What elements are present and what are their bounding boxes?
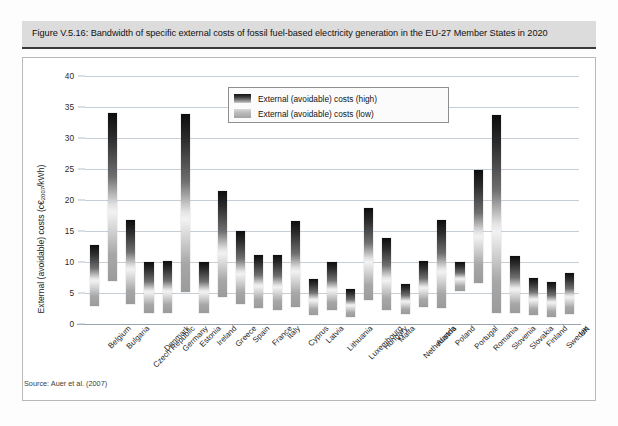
figure-container: Figure V.5.16: Bandwidth of specific ext… [0,0,618,426]
range-bar [309,279,318,314]
range-bar [254,255,263,308]
y-tick-label: 15 [65,226,74,236]
chart-legend: External (avoidable) costs (high) Extern… [228,87,449,123]
range-bar [126,220,135,303]
figure-title-band: Figure V.5.16: Bandwidth of specific ext… [22,21,596,49]
range-bar [382,238,391,311]
y-axis-title-main: External (avoidable) costs (c€ [36,200,46,313]
range-bar [565,273,574,314]
range-bar [346,289,355,316]
y-tick-label: 35 [65,102,74,112]
y-tick-label: 40 [65,71,74,81]
y-tick-mark [78,231,85,232]
range-bar [291,221,300,307]
figure-title: Figure V.5.16: Bandwidth of specific ext… [32,27,548,39]
range-bar [218,191,227,298]
range-bar [144,262,153,313]
y-axis-title-subscript: 2007 [40,187,46,200]
range-bar [90,245,99,306]
range-bar [401,284,410,314]
range-bar [327,262,336,310]
gridline [85,200,579,201]
range-bar [181,114,190,291]
source-note: Source: Auer et al. (2007) [24,379,107,388]
y-tick-mark [78,200,85,201]
range-bar [236,231,245,304]
y-tick-label: 10 [65,257,74,267]
x-axis-label: Austria [435,324,459,348]
range-bar [199,262,208,313]
legend-label-low: External (avoidable) costs (low) [258,109,374,119]
y-tick-mark [78,138,85,139]
legend-item: External (avoidable) costs (high) [234,91,443,106]
gridline [85,231,579,232]
y-tick-mark [78,107,85,108]
y-axis-title-tail: /kWh) [36,165,46,187]
range-bar [163,261,172,313]
range-bar [474,170,483,283]
range-bar [529,278,538,315]
y-tick-label: 30 [65,133,74,143]
y-tick-mark [78,324,85,325]
range-bar [437,220,446,307]
legend-item: External (avoidable) costs (low) [234,106,443,121]
y-tick-mark [78,262,85,263]
range-bar [455,262,464,291]
chart-panel: External (avoidable) costs (c€2007/kWh) … [22,57,596,401]
range-bar [547,282,556,317]
y-tick-label: 20 [65,195,74,205]
range-bar [273,255,282,310]
y-tick-label: 5 [69,288,74,298]
gridline [85,76,579,77]
y-tick-label: 25 [65,164,74,174]
x-axis-label: Lithuania [345,324,374,353]
y-tick-label: 0 [69,319,74,329]
legend-label-high: External (avoidable) costs (high) [258,94,377,104]
y-tick-mark [78,76,85,77]
gridline [85,169,579,170]
range-bar [364,208,373,300]
range-bar [419,261,428,307]
y-tick-mark [78,169,85,170]
y-axis-title: External (avoidable) costs (c€2007/kWh) [33,115,49,363]
range-bar [492,115,501,313]
range-bar [510,256,519,312]
y-tick-mark [78,293,85,294]
legend-swatch-low-icon [234,109,251,118]
legend-swatch-high-icon [234,94,251,103]
range-bar [108,113,117,281]
gridline [85,138,579,139]
x-axis-labels: BelgiumBulgariaCzech RepublicDenmarkGerm… [85,324,579,400]
